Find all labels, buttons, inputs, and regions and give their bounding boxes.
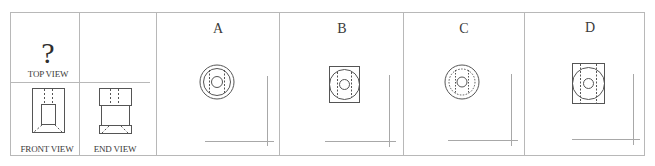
front-view-label: FRONT VIEW [14, 144, 80, 154]
option-b-letter[interactable]: B [330, 21, 354, 37]
option-c-letter[interactable]: C [452, 21, 476, 37]
option-d-letter[interactable]: D [578, 20, 602, 36]
end-view-label: END VIEW [82, 144, 148, 154]
end-view-drawing [100, 89, 132, 134]
option-a-letter[interactable]: A [206, 21, 230, 37]
option-d-drawing[interactable] [573, 64, 605, 104]
question-mark: ? [33, 36, 63, 70]
drawing-sheet [0, 0, 655, 166]
option-b-drawing[interactable] [330, 67, 360, 103]
option-c-axes [448, 74, 518, 146]
grid-lines [10, 12, 645, 156]
option-c-drawing[interactable] [445, 65, 479, 99]
option-a-drawing[interactable] [200, 65, 234, 99]
option-b-axes [325, 75, 396, 147]
option-a-axes [205, 76, 274, 146]
front-view-drawing [33, 89, 65, 133]
top-view-label: TOP VIEW [16, 69, 80, 79]
option-d-axes [572, 74, 640, 145]
